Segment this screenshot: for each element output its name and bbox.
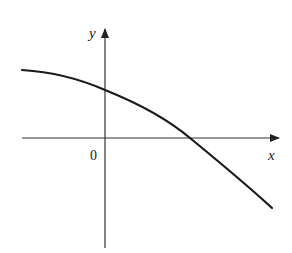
x-axis-label: x bbox=[267, 147, 275, 163]
function-graph: y 0 x bbox=[0, 0, 292, 253]
y-axis-label: y bbox=[87, 25, 96, 41]
function-curve bbox=[22, 70, 272, 208]
origin-label: 0 bbox=[90, 148, 97, 163]
